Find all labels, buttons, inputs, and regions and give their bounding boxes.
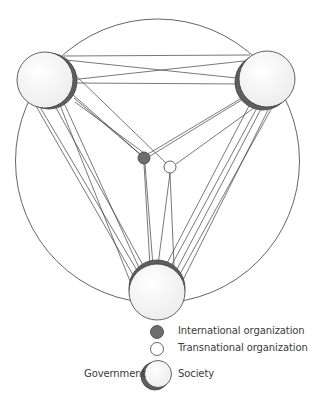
connection-line [165, 104, 250, 267]
connection-line [183, 106, 270, 280]
connection-line [180, 104, 274, 274]
connection-line [70, 70, 166, 163]
connection-line [74, 83, 246, 84]
legend-icons [141, 326, 172, 391]
country-bottom-node [129, 260, 185, 320]
legend-government-label: Government [84, 368, 145, 379]
legend-transnational-label: Transnational organization [178, 342, 308, 353]
connection-line [40, 107, 138, 272]
connection-line [150, 96, 248, 156]
connection-line [75, 102, 144, 153]
connection-line [72, 94, 140, 154]
connection-line [176, 107, 262, 271]
legend-international-label: International organization [178, 325, 305, 336]
connection-line [158, 173, 170, 265]
connection-line [64, 103, 140, 270]
government-society-legend-icon [141, 361, 172, 391]
connection-line [64, 55, 250, 56]
connection-line [36, 106, 133, 275]
connection-line [60, 105, 130, 281]
nodes [17, 51, 295, 320]
transnational-org-node [164, 161, 176, 173]
country-left-node [17, 52, 77, 109]
international-org-node [138, 152, 150, 164]
connection-line [170, 106, 258, 268]
legend-society-label: Society [178, 368, 214, 379]
connection-line [66, 60, 246, 79]
transnational-org-legend-icon [151, 343, 164, 356]
international-org-legend-icon [151, 326, 164, 339]
connection-line [55, 106, 144, 267]
connection-line [148, 93, 250, 154]
connection-line [170, 173, 174, 266]
connection-line [70, 61, 244, 80]
